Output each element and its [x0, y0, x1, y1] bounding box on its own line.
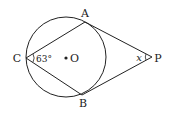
label-o: O — [70, 52, 79, 65]
angle-c-arc — [33, 54, 34, 62]
angle-p-arc — [145, 54, 146, 60]
label-b: B — [79, 97, 87, 110]
label-angle-x: x — [136, 52, 142, 63]
geometry-diagram: A B C O P x 63° — [0, 0, 171, 115]
label-c: C — [13, 52, 21, 65]
label-p: P — [154, 52, 162, 65]
center-point-o — [64, 56, 67, 59]
label-angle-c: 63° — [36, 54, 52, 64]
label-a: A — [80, 7, 90, 20]
tangent-pa — [85, 22, 152, 57]
